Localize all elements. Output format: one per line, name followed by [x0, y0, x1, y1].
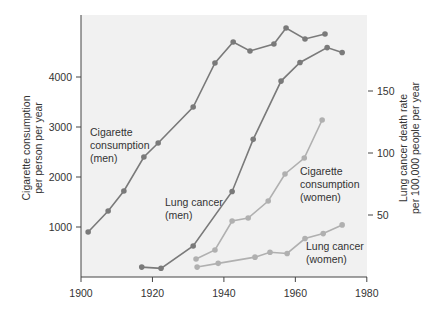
- data-point: [322, 31, 328, 37]
- data-point: [319, 117, 325, 123]
- data-point: [212, 60, 218, 66]
- right-y-tick-label: 150: [377, 85, 395, 97]
- data-point: [121, 188, 127, 194]
- data-point: [247, 48, 253, 54]
- data-point: [229, 218, 235, 224]
- data-point: [158, 266, 164, 272]
- data-point: [194, 264, 200, 270]
- x-tick-label: 1900: [69, 287, 93, 299]
- data-point: [339, 50, 345, 56]
- data-point: [155, 140, 161, 146]
- data-point: [283, 25, 289, 31]
- data-point: [85, 229, 91, 235]
- data-point: [212, 247, 218, 253]
- data-point: [139, 264, 145, 270]
- data-point: [229, 189, 235, 195]
- data-point: [278, 78, 284, 84]
- data-point: [252, 254, 258, 260]
- data-point: [193, 256, 199, 262]
- right-y-tick-label: 100: [377, 147, 395, 159]
- data-point: [267, 249, 273, 255]
- data-point: [324, 45, 330, 51]
- data-point: [282, 171, 288, 177]
- data-point: [297, 60, 303, 66]
- left-y-tick-label: 2000: [49, 171, 73, 183]
- left-axis-title: Cigarette consumptionper person per year: [20, 95, 44, 200]
- left-y-tick-label: 4000: [49, 71, 73, 83]
- x-tick-label: 1960: [284, 287, 308, 299]
- chart: 1900192019401960198010002000300040005010…: [0, 0, 439, 310]
- data-point: [339, 222, 345, 228]
- data-point: [271, 41, 277, 47]
- x-tick-label: 1940: [212, 287, 236, 299]
- data-point: [320, 231, 326, 237]
- data-point: [215, 261, 221, 267]
- data-point: [245, 215, 251, 221]
- x-tick-label: 1980: [355, 287, 379, 299]
- left-y-tick-label: 3000: [49, 121, 73, 133]
- data-point: [284, 251, 290, 257]
- data-point: [250, 137, 256, 143]
- data-point: [141, 154, 147, 160]
- data-point: [105, 208, 111, 214]
- data-point: [265, 198, 271, 204]
- x-tick-label: 1920: [141, 287, 165, 299]
- data-point: [190, 104, 196, 110]
- data-point: [302, 36, 308, 42]
- right-y-tick-label: 50: [377, 209, 389, 221]
- data-point: [230, 39, 236, 45]
- left-y-tick-label: 1000: [49, 221, 73, 233]
- data-point: [190, 243, 196, 249]
- right-axis-title: Lung cancer death rateper 100,000 people…: [397, 82, 421, 214]
- data-point: [301, 155, 307, 161]
